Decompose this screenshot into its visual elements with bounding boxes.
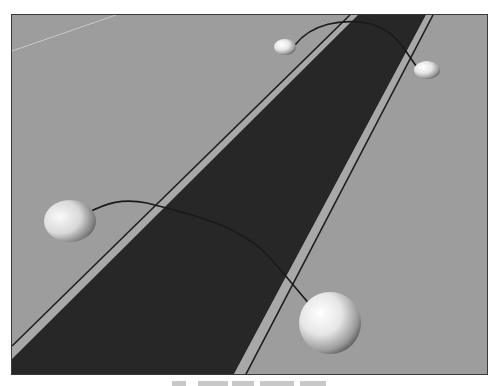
caption-glyph-fragment xyxy=(232,381,254,386)
caption-glyph-fragment xyxy=(198,381,228,386)
figure-caption-truncated xyxy=(170,377,330,386)
far-left-sphere xyxy=(274,39,296,55)
near-left-sphere xyxy=(44,200,96,242)
scene-render xyxy=(12,15,488,375)
far-right-sphere xyxy=(414,61,440,79)
caption-glyph-fragment xyxy=(300,381,326,386)
caption-glyph-fragment xyxy=(172,381,186,386)
caption-glyph-fragment xyxy=(260,381,294,386)
scene-frame xyxy=(11,14,488,375)
near-right-sphere xyxy=(299,292,361,354)
